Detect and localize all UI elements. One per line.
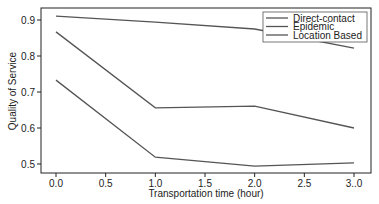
x-tick-label: 2.5 xyxy=(297,178,311,189)
x-tick-label: 3..0 xyxy=(346,178,363,189)
legend-label: Location Based xyxy=(293,30,362,41)
legend: Direct-contactEpidemicLocation Based xyxy=(263,12,367,42)
y-tick-label: 0.9 xyxy=(21,15,35,26)
x-axis-label: Transportation time (hour) xyxy=(148,188,263,199)
x-tick-label: 0.0 xyxy=(49,178,63,189)
y-tick-label: 0.8 xyxy=(21,51,35,62)
y-tick-label: 0.7 xyxy=(21,87,35,98)
x-axis: 0.00.51.01.52.02.53..0 xyxy=(49,173,363,189)
y-tick-label: 0.5 xyxy=(21,159,35,170)
y-tick-label: 0.6 xyxy=(21,123,35,134)
line-chart: 0.50.60.70.80.9 0.00.51.01.52.02.53..0 T… xyxy=(0,0,379,204)
y-axis-label: Quality of Service xyxy=(7,51,18,130)
x-tick-label: 0.5 xyxy=(99,178,113,189)
y-axis: 0.50.60.70.80.9 xyxy=(21,15,41,170)
